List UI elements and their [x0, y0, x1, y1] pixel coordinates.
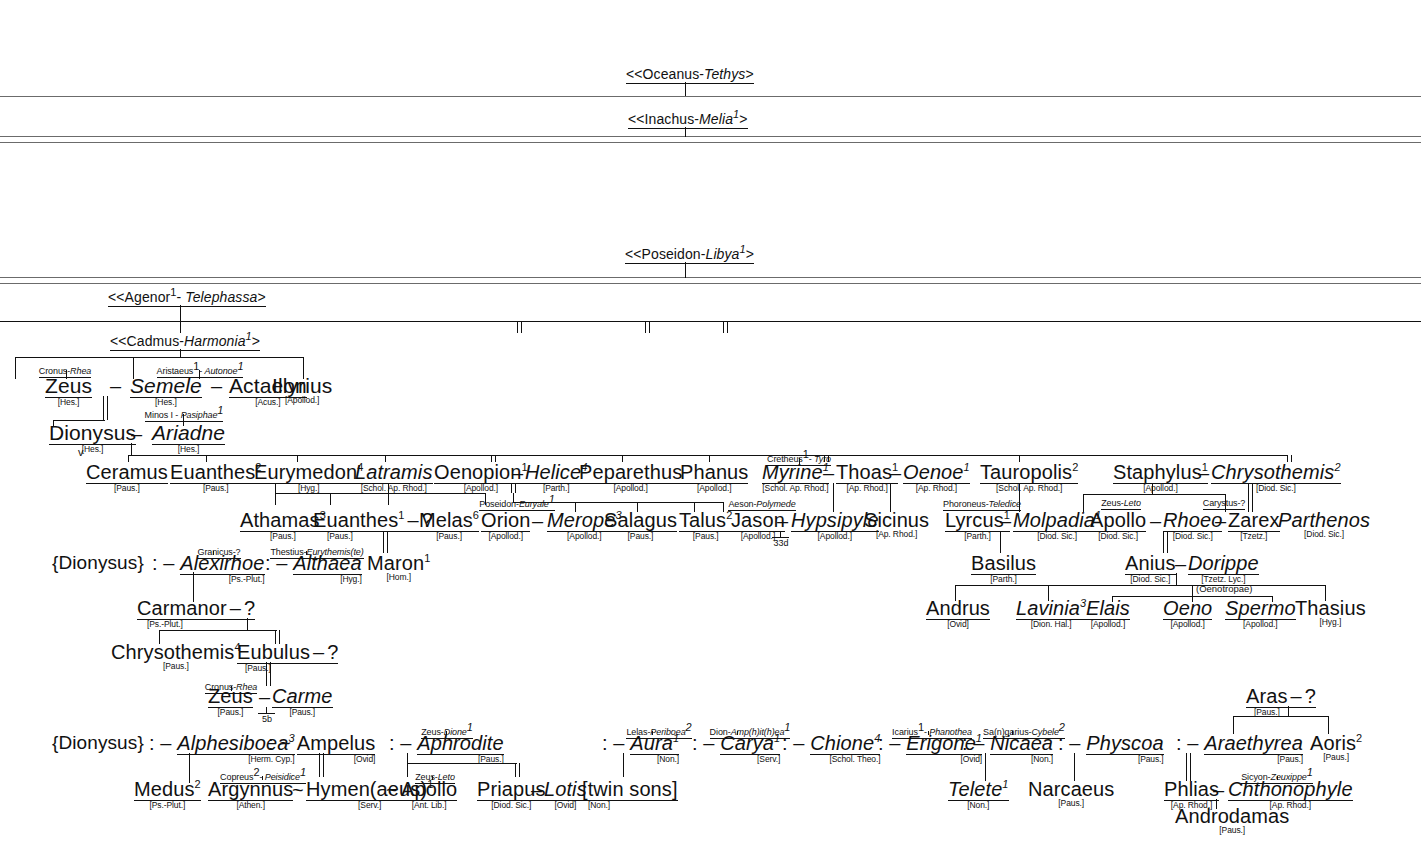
line — [159, 630, 277, 631]
line — [1288, 706, 1289, 716]
connector-dash: – — [777, 511, 788, 531]
person-chrysothemis-2: Chrysothemis2 [Diod. Sic.] — [1211, 462, 1341, 493]
person-andrus: Andrus [Ovid] — [926, 598, 990, 629]
line — [645, 321, 650, 333]
connector-dash: – — [1215, 511, 1226, 531]
connector-dash: – — [532, 511, 543, 531]
line — [15, 357, 16, 379]
rail-poseidon-bottom — [0, 283, 1421, 284]
line — [330, 493, 331, 505]
person-anius: Anius [Diod. Sic.] — [1125, 553, 1176, 584]
person-carme: Carme [Paus.] — [272, 686, 333, 717]
person-salagus: Salagus [Paus.] — [604, 510, 677, 541]
line — [1233, 716, 1328, 717]
line — [247, 618, 248, 630]
person-lotis: Lotis [Ovid] — [544, 779, 587, 810]
ancestor-agenor-spouse: Telephassa — [185, 289, 257, 305]
person-semele: Semele [Hes.] — [130, 375, 202, 407]
person-thasius: Thasius [Hyg.] — [1295, 598, 1366, 627]
label-dionysus-2: {Dionysus} — [52, 733, 144, 752]
line — [275, 493, 485, 494]
line — [383, 531, 388, 553]
line — [407, 763, 517, 764]
person-carmanor: Carmanor–? [Ps.-Plut.] — [137, 598, 255, 629]
person-dorippe: Dorippe [Tzetz. Lyc.] — [1188, 553, 1259, 584]
person-orion: Orion [Apollod.] — [481, 510, 530, 541]
person-chione: : – Chione4 [Schol. Theo.] — [782, 733, 880, 764]
line — [955, 585, 1325, 586]
connector-dash: – — [1175, 554, 1186, 574]
person-parthenos: Parthenos [Diod. Sic.] — [1278, 510, 1370, 539]
connector-dash: – — [890, 463, 901, 483]
ancestor-agenor: <<Agenor1- Telephassa> — [108, 289, 266, 307]
person-maron: Maron1 [Hom.] — [367, 553, 430, 582]
ancestor-inachus: <<Inachus-Melia1> — [628, 111, 748, 129]
ancestor-cadmus-label: <<Cadmus- — [110, 333, 184, 349]
line — [128, 455, 1288, 456]
person-euanthes-1: Euanthes1–? [Paus.] — [313, 510, 433, 541]
ancestor-poseidon: <<Poseidon-Libya1> — [625, 246, 754, 264]
connector-dash: – — [1000, 511, 1011, 531]
line — [1163, 531, 1168, 553]
connector-dash: – — [259, 687, 270, 707]
line — [780, 531, 781, 537]
ancestor-agenor-label: <<Agenor — [108, 289, 170, 305]
line — [1074, 753, 1075, 781]
person-medus: Medus2 [Ps.-Plut.] — [134, 779, 201, 810]
ancestor-oceanus-label: <<Oceanus- — [626, 66, 704, 82]
parents-minos-pasiphae: Minos I - Pasiphae1 — [140, 404, 228, 422]
connector-dash: – — [131, 424, 142, 444]
line — [180, 305, 181, 321]
person-carya: : – Carya1 [Serv.] — [692, 733, 780, 764]
person-apollo-2: Apollo [Ant. Lib.] — [401, 779, 457, 810]
line — [515, 763, 520, 777]
ancestor-cadmus-spouse: Harmonia — [184, 333, 246, 349]
ancestor-inachus-label: <<Inachus- — [628, 111, 699, 127]
ancestor-oceanus: <<Oceanus-Tethys> — [626, 66, 754, 84]
line — [407, 753, 408, 763]
connector-dash: – — [823, 463, 834, 483]
line — [685, 82, 686, 96]
ref-33d: 33d — [766, 538, 796, 548]
person-dionysus: Dionysus [Hes.] — [49, 422, 136, 454]
person-aoris: Aoris2 [Paus.] — [1310, 733, 1362, 762]
line — [511, 483, 516, 493]
line — [685, 262, 686, 278]
connector-tilde: ~ — [386, 780, 398, 800]
line — [890, 483, 891, 512]
person-illyrius: Illyrius [Apollod.] — [272, 375, 332, 405]
line — [266, 707, 267, 713]
line — [180, 349, 181, 357]
rail-inachus-bottom — [0, 142, 1421, 143]
rail-oceanus — [0, 96, 1421, 97]
person-androdamas: Androdamas [Paus.] — [1175, 806, 1289, 835]
ancestor-oceanus-spouse: Tethys — [704, 66, 745, 82]
person-zarex: Zarex [Tzetz.] — [1228, 510, 1280, 541]
line — [15, 357, 303, 358]
parents-carystus: Carystus-? — [1191, 492, 1257, 510]
connector-dash: – — [531, 780, 542, 800]
line — [1000, 531, 1001, 553]
line — [623, 753, 624, 777]
line — [1186, 753, 1191, 781]
label-dionysus-1: {Dionysus} — [52, 553, 144, 572]
person-sicinus: Sicinus [Ap. Rhod.] — [864, 510, 929, 539]
person-chrysothemis-4: Chrysothemis4 [Paus.] — [111, 642, 241, 671]
person-spermo: Spermo [Apollod.] — [1225, 598, 1296, 629]
line — [266, 662, 271, 686]
person-aura: : – Aura1 [Non.] — [602, 733, 679, 764]
person-staphylus: Staphylus1 [Apollod.] — [1113, 462, 1208, 493]
person-talus: Talus2 [Paus.] — [679, 510, 732, 541]
line — [685, 127, 686, 137]
person-apollo-1: Apollo [Diod. Sic.] — [1090, 510, 1146, 541]
connector-dash: – — [512, 463, 523, 483]
person-melas: Melas6 [Paus.] — [419, 510, 479, 541]
ancestor-poseidon-spouse: Libya — [706, 246, 740, 262]
person-euanthes-2: Euanthes2 [Paus.] — [170, 462, 262, 493]
person-zeus-2: Zeus [Paus.] — [208, 686, 253, 717]
genealogy-chart: <<Oceanus-Tethys> <<Inachus-Melia1> <<Po… — [0, 0, 1421, 865]
line — [103, 396, 108, 420]
person-althaea: : – Althaea [Hyg.] — [265, 553, 362, 584]
connector-dash: – — [1150, 511, 1161, 531]
person-zeus-1: Zeus [Hes.] — [45, 375, 92, 407]
